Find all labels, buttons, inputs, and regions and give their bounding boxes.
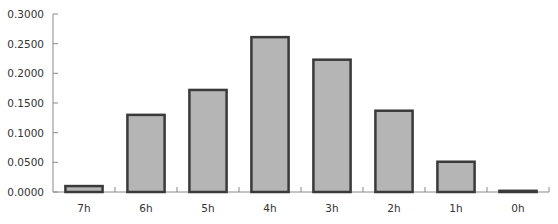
bar-6h bbox=[127, 115, 164, 192]
bar-0h bbox=[499, 191, 536, 192]
x-tick-label: 1h bbox=[449, 202, 462, 214]
x-tick-label: 7h bbox=[77, 202, 90, 214]
y-tick-label: 0.3000 bbox=[7, 8, 44, 20]
x-tick-label: 6h bbox=[139, 202, 152, 214]
x-tick-label: 4h bbox=[263, 202, 276, 214]
y-tick-label: 0.0500 bbox=[7, 156, 44, 168]
bar-chart: 0.00000.05000.10000.15000.20000.25000.30… bbox=[0, 0, 558, 224]
y-axis: 0.00000.05000.10000.15000.20000.25000.30… bbox=[7, 8, 58, 198]
x-tick-label: 3h bbox=[325, 202, 338, 214]
y-tick-label: 0.0000 bbox=[7, 186, 44, 198]
bar-1h bbox=[437, 162, 474, 192]
x-tick-label: 2h bbox=[387, 202, 400, 214]
bar-5h bbox=[189, 90, 226, 192]
x-tick-label: 0h bbox=[511, 202, 524, 214]
x-tick-label: 5h bbox=[201, 202, 214, 214]
y-tick-label: 0.1000 bbox=[7, 127, 44, 139]
bar-7h bbox=[65, 186, 102, 192]
y-tick-label: 0.2500 bbox=[7, 38, 44, 50]
y-tick-label: 0.2000 bbox=[7, 67, 44, 79]
bars bbox=[65, 37, 536, 192]
y-tick-label: 0.1500 bbox=[7, 97, 44, 109]
bar-4h bbox=[251, 37, 288, 192]
bar-3h bbox=[313, 60, 350, 192]
bar-2h bbox=[375, 111, 412, 192]
